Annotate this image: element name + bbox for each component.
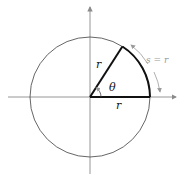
label-radius-angled: r [96,58,101,71]
label-theta: θ [109,81,116,94]
radian-diagram: r θ r s = r [0,0,185,180]
radius-angled [90,47,122,98]
arc-length-arrow-lower [154,72,160,92]
label-radius-horizontal: r [116,99,121,112]
diagram-svg [0,0,185,180]
angle-arc [96,88,101,97]
label-arc-length: s = r [146,55,168,65]
